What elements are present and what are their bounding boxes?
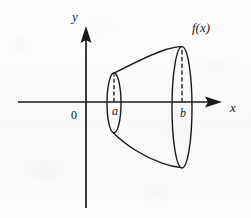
lower-bound-label-a: a	[112, 105, 118, 117]
solid-of-revolution-figure: y x 0 a b f(x)	[0, 0, 251, 218]
upper-profile-curve	[114, 47, 182, 74]
figure-drawing-canvas	[0, 0, 251, 218]
origin-label: 0	[71, 109, 77, 121]
x-axis-label: x	[230, 101, 236, 114]
lower-profile-curve	[113, 132, 181, 167]
y-axis-label: y	[72, 10, 78, 23]
function-label: f(x)	[192, 21, 210, 34]
upper-bound-label-b: b	[180, 107, 186, 119]
